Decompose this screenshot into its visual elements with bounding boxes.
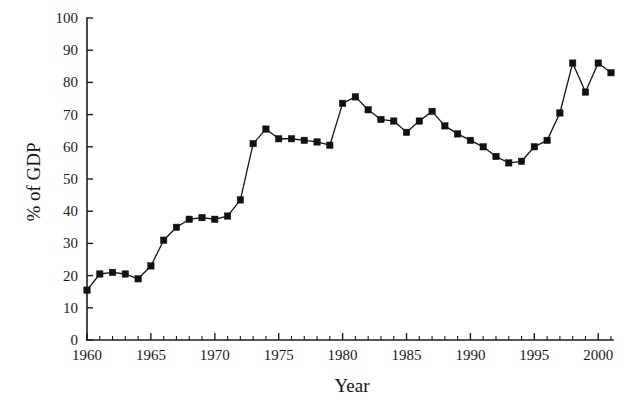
x-tick-label: 1980 (328, 347, 358, 363)
y-tick-label: 90 (63, 42, 78, 58)
data-point-marker (314, 139, 320, 145)
y-tick-label: 80 (63, 74, 78, 90)
x-tick-label: 1990 (455, 347, 485, 363)
data-point-marker (378, 116, 384, 122)
y-tick-label: 100 (56, 10, 79, 26)
data-point-marker (595, 60, 601, 66)
data-point-marker (173, 224, 179, 230)
data-point-marker (544, 137, 550, 143)
y-tick-label: 70 (63, 107, 78, 123)
y-tick-label: 0 (71, 332, 79, 348)
data-point-marker (506, 160, 512, 166)
x-tick-label: 1985 (392, 347, 422, 363)
data-point-marker (148, 263, 154, 269)
data-point-marker (212, 216, 218, 222)
data-point-marker (442, 123, 448, 129)
data-point-marker (608, 70, 614, 76)
y-tick-label: 20 (63, 268, 78, 284)
data-point-marker (97, 271, 103, 277)
data-point-marker (493, 153, 499, 159)
data-point-marker (263, 126, 269, 132)
data-point-marker (557, 110, 563, 116)
x-tick-label: 2000 (583, 347, 613, 363)
data-point-marker (160, 237, 166, 243)
y-tick-label: 40 (63, 203, 78, 219)
data-point-marker (454, 131, 460, 137)
y-tick-label: 60 (63, 139, 78, 155)
data-point-marker (339, 100, 345, 106)
data-point-marker (327, 142, 333, 148)
data-point-marker (391, 118, 397, 124)
data-point-marker (276, 136, 282, 142)
data-point-marker (301, 137, 307, 143)
data-point-marker (288, 136, 294, 142)
data-point-marker (224, 213, 230, 219)
data-point-marker (365, 107, 371, 113)
x-axis-title: Year (334, 375, 370, 396)
x-tick-label: 1995 (519, 347, 549, 363)
data-point-marker (199, 214, 205, 220)
data-point-marker (135, 276, 141, 282)
x-tick-label: 1965 (136, 347, 166, 363)
y-axis-title: % of GDP (23, 142, 44, 221)
data-point-marker (237, 197, 243, 203)
y-tick-label: 50 (63, 171, 78, 187)
data-point-marker (250, 140, 256, 146)
data-point-marker (403, 129, 409, 135)
data-point-marker (84, 287, 90, 293)
data-point-marker (109, 269, 115, 275)
data-point-marker (416, 118, 422, 124)
y-tick-label: 30 (63, 235, 78, 251)
data-point-marker (518, 158, 524, 164)
data-point-marker (352, 94, 358, 100)
gdp-line-chart: 0102030405060708090100 19601965197019751… (0, 0, 643, 409)
x-tick-label: 1975 (264, 347, 294, 363)
y-tick-label: 10 (63, 300, 78, 316)
data-point-marker (569, 60, 575, 66)
data-point-marker (122, 271, 128, 277)
chart-canvas: 0102030405060708090100 19601965197019751… (0, 0, 643, 409)
data-point-marker (467, 137, 473, 143)
data-point-marker (531, 144, 537, 150)
data-point-marker (582, 89, 588, 95)
x-tick-label: 1970 (200, 347, 230, 363)
x-tick-label: 1960 (72, 347, 102, 363)
data-point-marker (480, 144, 486, 150)
data-point-marker (429, 108, 435, 114)
data-point-marker (186, 216, 192, 222)
